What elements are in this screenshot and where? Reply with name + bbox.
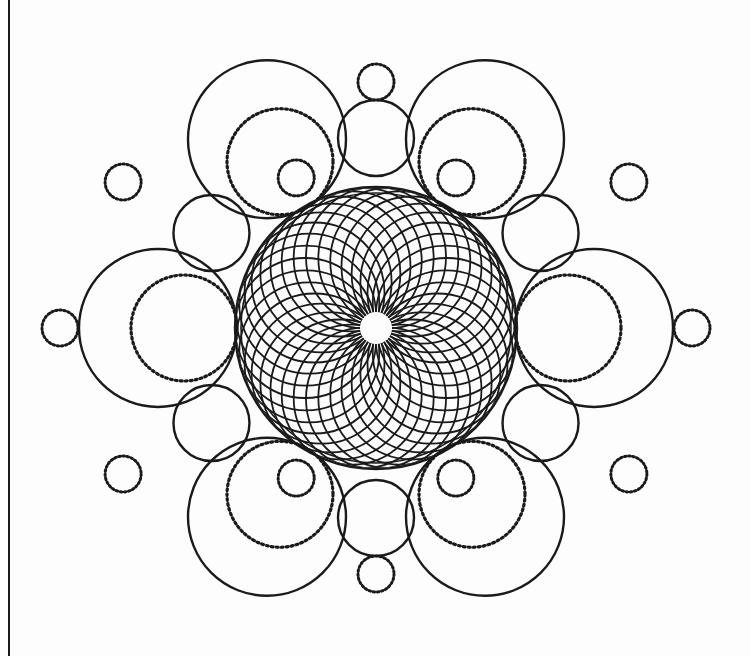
medium-circle (338, 480, 414, 556)
small-dotted-circle (278, 460, 314, 496)
small-dotted-circle (42, 310, 78, 346)
small-dotted-circle (438, 160, 474, 196)
small-dotted-circle (438, 460, 474, 496)
small-dotted-circle (105, 456, 141, 492)
large-circle (79, 249, 237, 407)
medium-circle (503, 385, 579, 461)
medium-circle (173, 385, 249, 461)
medium-circle (338, 100, 414, 176)
rosette-center-eye (360, 312, 392, 344)
artwork-canvas (0, 0, 751, 656)
central-rosette-group (235, 187, 517, 469)
large-circle-inner-dotted (131, 275, 237, 381)
medium-circle (173, 195, 249, 271)
small-dotted-circle (611, 456, 647, 492)
small-dotted-circle (358, 64, 394, 100)
small-dotted-circle (611, 164, 647, 200)
small-dotted-circle (674, 310, 710, 346)
small-dotted-circle (105, 164, 141, 200)
large-circle-inner-dotted (515, 275, 621, 381)
mandala-svg (0, 0, 751, 656)
left-page-edge (8, 0, 10, 656)
large-circle (515, 249, 673, 407)
small-dotted-circle (278, 160, 314, 196)
medium-circle (503, 195, 579, 271)
small-dotted-circle (358, 556, 394, 592)
